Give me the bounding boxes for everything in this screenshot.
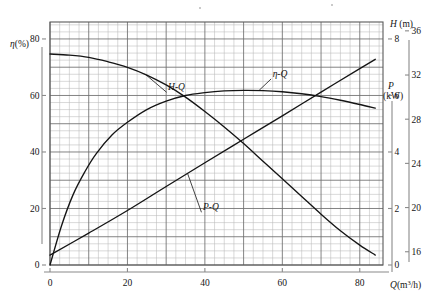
pump-performance-chart: 020406080 η(%) 02468 P (kW) 162024283236…: [0, 0, 427, 303]
axis-tick-label: 20: [412, 203, 422, 213]
flow-axis: 020406080 Q(m3/h): [44, 268, 421, 291]
head-axis-ticks: [405, 31, 409, 252]
flow-axis-ticks: [50, 268, 360, 272]
axis-tick-label: 8: [395, 34, 400, 44]
scan-speck: [199, 7, 201, 9]
eta-axis: 020406080 η(%): [10, 34, 46, 270]
flow-axis-title: Q(m3/h): [390, 279, 421, 291]
axis-tick-label: 16: [412, 247, 422, 257]
axis-tick-label: 40: [30, 147, 40, 157]
power-axis: 02468 P (kW): [383, 34, 403, 272]
curve-label-h-q: H-Q: [167, 82, 185, 92]
eta-axis-ticks: [42, 39, 46, 265]
curve-label-p-q: P-Q: [202, 202, 219, 212]
axis-tick-label: 80: [30, 34, 40, 44]
power-axis-ticklabels: 02468: [395, 34, 400, 270]
axis-tick-label: 2: [395, 204, 400, 214]
plot-background: [50, 22, 383, 265]
axis-tick-label: 80: [355, 278, 365, 288]
axis-tick-label: 20: [123, 278, 133, 288]
axis-tick-label: 0: [35, 260, 40, 270]
curve-label-eta-q: η-Q: [273, 69, 288, 79]
head-axis: 162024283236 H (m): [389, 19, 421, 262]
axis-tick-label: 24: [412, 159, 422, 169]
axis-tick-label: 0: [395, 260, 400, 270]
flow-axis-ticklabels: 020406080: [48, 278, 365, 288]
axis-tick-label: 60: [30, 91, 40, 101]
eta-axis-title: η(%): [10, 39, 29, 50]
power-axis-ticks: [388, 39, 392, 265]
power-axis-unit: (kW): [383, 91, 403, 102]
chart-canvas: 020406080 η(%) 02468 P (kW) 162024283236…: [0, 0, 427, 303]
head-axis-ticklabels: 162024283236: [412, 26, 422, 257]
head-axis-title: H (m): [389, 19, 413, 30]
eta-axis-ticklabels: 020406080: [30, 34, 40, 270]
axis-tick-label: 60: [278, 278, 288, 288]
power-axis-symbol: P: [387, 81, 394, 91]
axis-tick-label: 20: [30, 204, 40, 214]
axis-tick-label: 0: [48, 278, 53, 288]
axis-tick-label: 4: [395, 147, 400, 157]
scan-speck: [331, 4, 333, 6]
axis-tick-label: 32: [412, 70, 422, 80]
axis-tick-label: 28: [412, 115, 422, 125]
axis-tick-label: 40: [200, 278, 210, 288]
